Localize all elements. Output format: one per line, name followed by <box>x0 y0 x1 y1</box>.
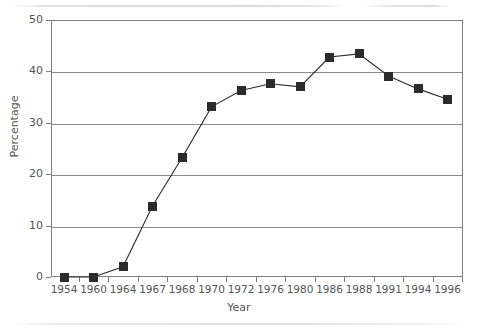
y-axis-tick-label: 50 <box>3 13 43 26</box>
gridline <box>52 72 462 73</box>
x-axis-tick <box>226 277 227 282</box>
x-axis-tick <box>256 277 257 282</box>
plot-area <box>51 20 463 277</box>
x-axis-tick <box>344 277 345 282</box>
gridline <box>52 227 462 228</box>
y-axis-tick-label: 0 <box>3 270 43 283</box>
data-point-marker <box>414 84 423 93</box>
data-point-marker <box>266 79 275 88</box>
x-axis-tick <box>285 277 286 282</box>
data-point-marker <box>119 262 128 271</box>
data-point-marker <box>207 102 216 111</box>
x-axis-tick <box>138 277 139 282</box>
x-axis-tick <box>79 277 80 282</box>
data-point-marker <box>325 53 334 62</box>
x-axis-tick-label: 1996 <box>428 283 468 295</box>
chart-figure: 01020304050 1954196019641967196819701972… <box>0 0 478 329</box>
data-point-marker <box>355 49 364 58</box>
data-point-marker <box>148 202 157 211</box>
x-axis-tick <box>374 277 375 282</box>
scan-artifact-bottom <box>12 323 464 325</box>
data-point-marker <box>443 95 452 104</box>
data-point-marker <box>178 153 187 162</box>
x-axis-tick <box>315 277 316 282</box>
x-axis-tick <box>197 277 198 282</box>
y-axis-tick <box>46 123 51 124</box>
y-axis-tick <box>46 71 51 72</box>
y-axis-tick <box>46 226 51 227</box>
x-axis-title: Year <box>0 301 478 314</box>
x-axis-tick <box>167 277 168 282</box>
x-axis-tick <box>108 277 109 282</box>
y-axis-tick-label: 10 <box>3 219 43 232</box>
data-point-marker <box>296 82 305 91</box>
gridline <box>52 175 462 176</box>
y-axis-tick <box>46 277 51 278</box>
x-axis-tick <box>433 277 434 282</box>
scan-artifact-top <box>10 5 450 7</box>
gridline <box>52 124 462 125</box>
y-axis-tick <box>46 174 51 175</box>
x-axis-tick <box>462 277 463 282</box>
data-point-marker <box>237 86 246 95</box>
data-point-marker <box>89 273 98 282</box>
x-axis-tick <box>403 277 404 282</box>
y-axis-tick <box>46 20 51 21</box>
data-point-marker <box>384 72 393 81</box>
y-axis-title: Percentage <box>8 67 21 187</box>
data-point-marker <box>60 273 69 282</box>
